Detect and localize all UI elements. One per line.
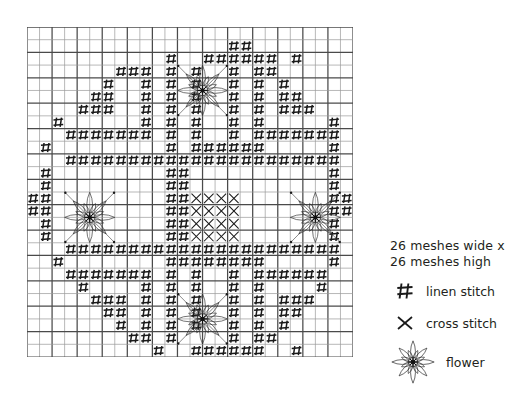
legend: 26 meshes wide x 26 meshes high linen st… — [390, 238, 515, 386]
flower-icon — [390, 339, 436, 385]
legend-item-linen-stitch: linen stitch — [390, 280, 515, 302]
linen-stitch-icon — [390, 281, 420, 301]
legend-title-line1: 26 meshes wide x — [390, 238, 515, 254]
chart-grid-svg — [27, 27, 353, 357]
cross-stitch-icon — [390, 313, 420, 333]
legend-item-flower: flower — [390, 338, 515, 386]
legend-item-cross-stitch: cross stitch — [390, 312, 515, 334]
legend-label-linen-stitch: linen stitch — [426, 284, 495, 299]
legend-label-flower: flower — [446, 355, 485, 370]
legend-title: 26 meshes wide x 26 meshes high — [390, 238, 515, 270]
legend-label-cross-stitch: cross stitch — [426, 316, 497, 331]
stitch-chart — [27, 27, 353, 357]
legend-title-line2: 26 meshes high — [390, 254, 515, 270]
